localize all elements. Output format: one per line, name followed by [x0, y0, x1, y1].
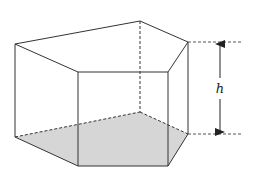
- pentagonal-prism-diagram: h: [0, 0, 255, 179]
- shaded-base-face: [15, 112, 188, 166]
- height-label: h: [216, 81, 224, 96]
- top-face: [15, 21, 188, 72]
